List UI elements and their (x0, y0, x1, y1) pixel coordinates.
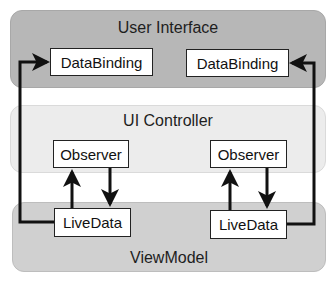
livedata-left-node: LiveData (54, 208, 131, 237)
livedata-right-node: LiveData (210, 210, 287, 239)
view-model-title: ViewModel (13, 249, 325, 267)
databinding-left-node: DataBinding (50, 48, 153, 76)
user-interface-title: User Interface (11, 19, 325, 37)
ui-controller-title: UI Controller (11, 112, 325, 130)
observer-left-node: Observer (53, 140, 129, 168)
databinding-right-node: DataBinding (186, 49, 289, 77)
observer-right-node: Observer (210, 140, 287, 168)
